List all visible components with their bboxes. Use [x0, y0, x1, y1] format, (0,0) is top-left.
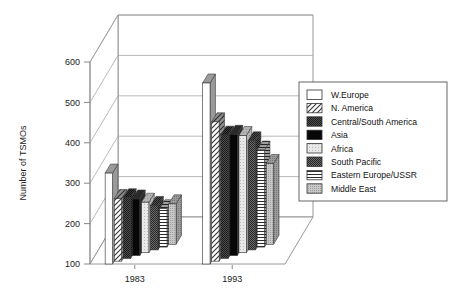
- legend-item-middle-east[interactable]: Middle East: [307, 184, 377, 194]
- legend-label: Middle East: [331, 184, 377, 194]
- legend-swatch-dark-check-icon: [307, 117, 322, 126]
- y-tick-label: 600: [65, 57, 80, 67]
- legend-label: W.Europe: [331, 90, 369, 100]
- legend-item-africa[interactable]: Africa: [307, 144, 353, 154]
- y-tick-label: 300: [65, 178, 80, 188]
- legend-swatch-horizontal-lines-icon: [307, 170, 322, 179]
- legend-label: Eastern Europe/USSR: [331, 170, 417, 180]
- legend-swatch-gray-dots-icon: [307, 184, 322, 193]
- y-tick-label: 500: [65, 98, 80, 108]
- legend-item-w-europe[interactable]: W.Europe: [307, 90, 369, 100]
- legend-swatch-medium-check-icon: [307, 157, 322, 166]
- legend: W.EuropeN. AmericaCentral/South AmericaA…: [299, 82, 447, 201]
- legend-item-south-pacific[interactable]: South Pacific: [307, 157, 382, 167]
- chart-container: 600500400300200100Number of TSMOs1983199…: [0, 0, 451, 305]
- legend-swatch-solid-black-icon: [307, 130, 322, 139]
- legend-label: South Pacific: [331, 157, 382, 167]
- bar-chart-3d: 600500400300200100Number of TSMOs1983199…: [0, 0, 451, 305]
- bar-middle-east-1983[interactable]: [169, 195, 182, 244]
- legend-label: Africa: [331, 144, 353, 154]
- legend-label: N. America: [331, 103, 373, 113]
- legend-swatch-light-dots-icon: [307, 144, 322, 153]
- y-tick-label: 400: [65, 138, 80, 148]
- y-tick-label: 100: [65, 259, 80, 269]
- x-tick-label-1993: 1993: [222, 274, 242, 284]
- legend-label: Central/South America: [331, 117, 417, 127]
- legend-item-n-america[interactable]: N. America: [307, 103, 373, 113]
- legend-swatch-solid-white-icon: [307, 90, 322, 99]
- y-tick-label: 200: [65, 219, 80, 229]
- y-axis-title: Number of TSMOs: [18, 125, 28, 200]
- bar-middle-east-1993[interactable]: [266, 154, 279, 244]
- legend-label: Asia: [331, 130, 348, 140]
- legend-swatch-diagonal-hatch-icon: [307, 103, 322, 112]
- x-tick-label-1983: 1983: [125, 274, 145, 284]
